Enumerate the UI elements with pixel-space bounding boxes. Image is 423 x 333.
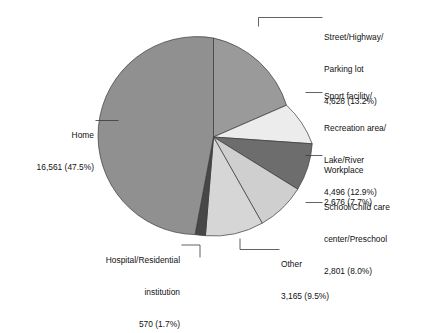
slice-value: 570 (1.7%) bbox=[42, 319, 180, 330]
slice-label-home: Home 16,561 (47.5%) bbox=[0, 109, 94, 194]
leader-line-other bbox=[240, 239, 279, 250]
slice-label-line: institution bbox=[42, 287, 180, 298]
slice-label-line: Other bbox=[281, 259, 381, 270]
slice-value: 3,165 (9.5%) bbox=[281, 291, 381, 302]
slice-label-line: Hospital/Residential bbox=[42, 255, 180, 266]
slice-label-line: Recreation area/ bbox=[324, 123, 423, 134]
leader-line-hospital bbox=[182, 245, 200, 257]
slice-label-line: Sport facility/ bbox=[324, 91, 423, 102]
leader-line-street bbox=[259, 18, 323, 27]
slice-label-line: Home bbox=[0, 130, 94, 141]
pie-slice-home[interactable] bbox=[98, 37, 213, 235]
slice-label-other: Other 3,165 (9.5%) bbox=[281, 238, 381, 323]
slice-value: 16,561 (47.5%) bbox=[0, 162, 94, 173]
slice-label-hospital-residential-institution: Hospital/Residential institution 570 (1.… bbox=[42, 234, 180, 333]
pie-slices bbox=[98, 37, 312, 236]
slice-label-line: Street/Highway/ bbox=[324, 32, 423, 43]
slice-label-line: Workplace bbox=[324, 165, 423, 176]
slice-label-line: School/Child care bbox=[324, 202, 423, 213]
